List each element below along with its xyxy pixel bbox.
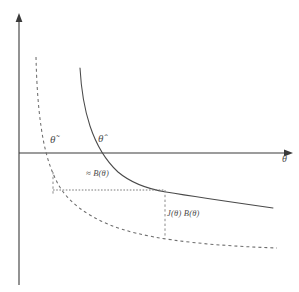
vertical-axis-arrowhead [16,13,23,22]
theta-hat-label: θ̂ [98,133,103,144]
theta-hat-curve [80,68,273,208]
theta-axis-label: θ [282,154,287,164]
jacobian-bias-label: J(θ) B(θ) [167,209,200,218]
figure-canvas [0,0,299,292]
bias-label: ≈ B(θ) [86,169,109,178]
theta-tilde-label: θ̃ [50,134,55,145]
figure-container: θ̃ θ̂ ≈ B(θ) J(θ) B(θ) θ [0,0,299,292]
